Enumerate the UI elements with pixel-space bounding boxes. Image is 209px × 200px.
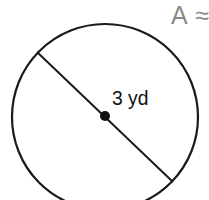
radius-measurement-label: 3 yd bbox=[112, 87, 149, 108]
center-point bbox=[100, 111, 110, 121]
area-prompt-label: A ≈ bbox=[171, 3, 209, 28]
circle-diagram bbox=[0, 0, 209, 200]
